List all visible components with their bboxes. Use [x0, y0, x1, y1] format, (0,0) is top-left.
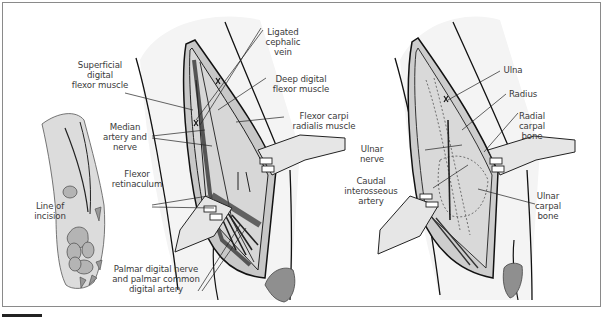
label-superficial-digital-flexor-muscle: Superficial digital flexor muscle	[66, 60, 134, 91]
label-radius: Radius	[505, 89, 541, 99]
label-ligated-cephalic-vein: Ligated cephalic vein	[258, 27, 308, 58]
label-median-artery-and-nerve: Median artery and nerve	[100, 122, 150, 153]
deep-dissection-drawing	[378, 16, 575, 300]
label-palmar-digital-nerve: Palmar digital nerve and palmar common d…	[106, 264, 206, 295]
superficial-dissection-drawing	[136, 16, 345, 302]
label-caudal-interosseous-artery: Caudal interosseous artery	[340, 176, 402, 207]
label-radial-carpal-bone: Radial carpal bone	[514, 111, 550, 142]
label-deep-digital-flexor-muscle: Deep digital flexor muscle	[268, 74, 334, 94]
label-ulna: Ulna	[498, 65, 528, 75]
label-line-of-incision: Line of incision	[30, 201, 70, 221]
label-flexor-retinaculum: Flexor retinaculum	[108, 169, 166, 189]
label-flexor-carpi-radialis-muscle: Flexor carpi radialis muscle	[286, 111, 362, 131]
label-ulnar-carpal-bone: Ulnar carpal bone	[530, 191, 566, 222]
label-ulnar-nerve: Ulnar nerve	[350, 144, 394, 164]
